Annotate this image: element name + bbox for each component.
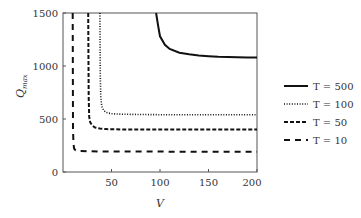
legend-label: T = 500 [313,81,354,92]
x-tick-label: 150 [199,177,218,188]
y-axis-label: Q max [14,74,29,98]
x-tick-label: 50 [105,177,118,188]
legend-label: T = 10 [313,135,347,146]
y-tick-label: 500 [39,114,58,125]
svg-text:Q: Q [14,89,27,98]
series-layer [73,13,257,152]
svg-text:max: max [21,74,29,89]
legend-label: T = 100 [313,99,354,110]
y-tick-label: 1500 [33,8,58,19]
y-tick-label: 0 [52,167,58,178]
legend: T = 500 T = 100 T = 50 T = 10 [284,81,354,146]
series-line [100,13,257,115]
chart-svg: 0 500 1000 1500 Q max 50 100 150 200 V T… [0,0,361,218]
x-axis-label: V [156,197,165,210]
series-line [88,13,257,130]
y-tick-label: 1000 [33,61,58,72]
y-axis: 0 500 1000 1500 Q max [14,8,66,178]
series-line [156,13,257,58]
x-axis: 50 100 150 200 V [105,169,261,210]
x-tick-label: 200 [242,177,261,188]
x-tick-label: 100 [150,177,169,188]
legend-label: T = 50 [313,117,347,128]
